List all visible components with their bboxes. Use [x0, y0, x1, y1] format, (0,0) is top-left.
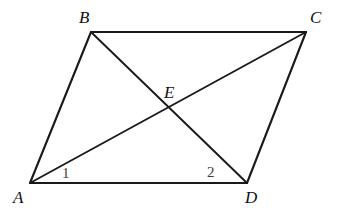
vertex-label-c: C: [310, 9, 321, 26]
angle-label-2: 2: [207, 165, 215, 180]
geometry-figure: A B C D E 1 2: [0, 0, 337, 216]
vertex-label-b: B: [79, 9, 89, 26]
diagonal-BD: [91, 32, 247, 183]
vertex-label-a: A: [13, 189, 23, 206]
point-label-e: E: [164, 84, 174, 101]
vertex-label-d: D: [245, 189, 257, 206]
side-AB: [30, 32, 91, 183]
diagram-canvas: [0, 0, 337, 216]
angle-label-1: 1: [62, 166, 70, 181]
side-CD: [247, 32, 306, 183]
